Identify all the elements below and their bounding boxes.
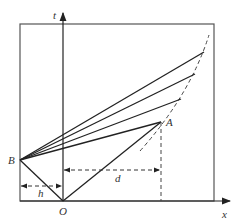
h-label: h bbox=[38, 188, 44, 199]
d-label: d bbox=[115, 173, 121, 184]
dashed-envelope-curve bbox=[140, 35, 209, 151]
t-axis-label: t bbox=[53, 10, 56, 21]
line-O-A bbox=[63, 122, 161, 201]
point-O-label: O bbox=[59, 206, 67, 217]
wave-diagram bbox=[0, 0, 239, 223]
x-axis-label: x bbox=[222, 209, 227, 220]
point-A-label: A bbox=[166, 117, 173, 128]
point-B-label: B bbox=[8, 155, 15, 166]
fan-lines bbox=[20, 52, 204, 160]
